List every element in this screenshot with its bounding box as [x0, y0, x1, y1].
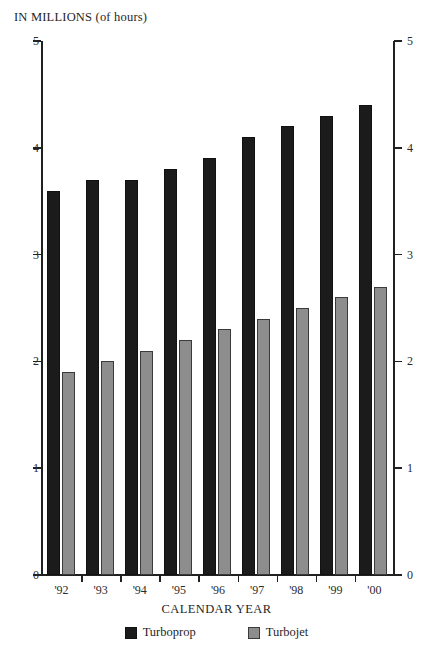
bar-group	[203, 41, 231, 575]
x-tick-label-97: '97	[237, 583, 277, 598]
y-tick-label-right-2: 2	[407, 355, 431, 367]
x-tick-mark	[238, 575, 240, 582]
bar-turboprop-96	[203, 158, 216, 575]
bar-group	[164, 41, 192, 575]
bar-turboprop-99	[320, 116, 333, 575]
x-tick-mark	[159, 575, 161, 582]
y-tick-label-right-0: 0	[407, 569, 431, 581]
x-tick-mark	[277, 575, 279, 582]
right-axis-spine	[393, 41, 395, 575]
x-tick-mark	[81, 575, 83, 582]
x-tick-mark	[355, 575, 357, 582]
bar-turbojet-00	[374, 287, 387, 575]
y-tick-label-left-5: 5	[15, 35, 39, 47]
x-tick-label-92: '92	[42, 583, 82, 598]
y-tick-right-1	[394, 467, 402, 469]
bar-turbojet-99	[335, 297, 348, 575]
bar-turbojet-96	[218, 329, 231, 575]
bar-turboprop-00	[359, 105, 372, 575]
bar-turbojet-94	[140, 351, 153, 575]
bar-group	[242, 41, 270, 575]
x-tick-mark	[198, 575, 200, 582]
y-tick-right-3	[394, 254, 402, 256]
y-tick-label-left-3: 3	[15, 249, 39, 261]
legend-entry-turboprop: Turboprop	[125, 625, 196, 640]
y-tick-label-right-4: 4	[407, 142, 431, 154]
y-tick-label-left-2: 2	[15, 355, 39, 367]
bar-group	[125, 41, 153, 575]
x-tick-mark	[120, 575, 122, 582]
y-tick-right-0	[394, 574, 402, 576]
x-tick-label-99: '99	[315, 583, 355, 598]
legend-label-turbojet: Turbojet	[266, 625, 309, 640]
plot-area: 012345 012345	[42, 41, 394, 575]
x-tick-label-98: '98	[276, 583, 316, 598]
x-axis-title: CALENDAR YEAR	[0, 602, 433, 617]
bar-turboprop-93	[86, 180, 99, 575]
y-tick-label-right-1: 1	[407, 462, 431, 474]
x-tick-label-96: '96	[198, 583, 238, 598]
bar-turboprop-95	[164, 169, 177, 575]
bar-chart: IN MILLIONS (of hours) 012345 012345 '92…	[0, 0, 433, 651]
legend-entry-turbojet: Turbojet	[248, 625, 309, 640]
y-tick-label-left-4: 4	[15, 142, 39, 154]
y-tick-label-right-3: 3	[407, 249, 431, 261]
bar-group	[320, 41, 348, 575]
legend-label-turboprop: Turboprop	[143, 625, 196, 640]
x-tick-label-93: '93	[81, 583, 121, 598]
y-tick-right-5	[394, 40, 402, 42]
y-tick-label-left-1: 1	[15, 462, 39, 474]
bar-group	[47, 41, 75, 575]
bar-turboprop-94	[125, 180, 138, 575]
x-tick-mark	[316, 575, 318, 582]
bar-turbojet-95	[179, 340, 192, 575]
y-tick-right-4	[394, 147, 402, 149]
bar-turbojet-92	[62, 372, 75, 575]
y-axis-title: IN MILLIONS (of hours)	[14, 10, 147, 25]
y-tick-label-left-0: 0	[15, 569, 39, 581]
bar-group	[281, 41, 309, 575]
bar-turboprop-97	[242, 137, 255, 575]
x-tick-label-95: '95	[159, 583, 199, 598]
x-tick-label-00: '00	[354, 583, 394, 598]
y-tick-right-2	[394, 361, 402, 363]
x-tick-label-94: '94	[120, 583, 160, 598]
chart-legend: Turboprop Turbojet	[0, 625, 433, 640]
bar-turbojet-97	[257, 319, 270, 575]
gray-square-icon	[248, 627, 260, 639]
y-tick-label-right-5: 5	[407, 35, 431, 47]
bar-turboprop-92	[47, 191, 60, 575]
bar-turboprop-98	[281, 126, 294, 575]
bar-turbojet-98	[296, 308, 309, 575]
bar-group	[359, 41, 387, 575]
bar-group	[86, 41, 114, 575]
bar-turbojet-93	[101, 361, 114, 575]
left-axis-spine	[41, 41, 43, 575]
black-square-icon	[125, 627, 137, 639]
